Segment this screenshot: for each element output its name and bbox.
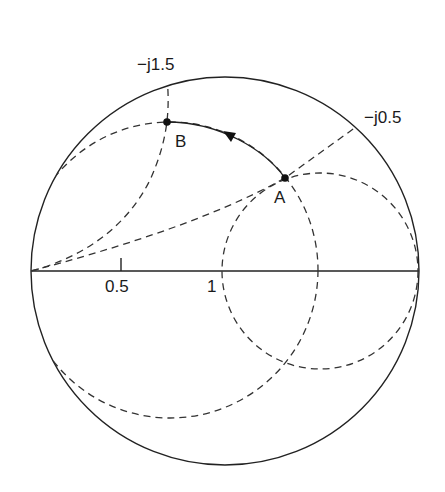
smith-chart: −j1.5 −j0.5 0.5 1 A B — [0, 0, 445, 492]
arrow-icon — [223, 131, 236, 142]
reactance-0-5-line — [31, 127, 356, 271]
label-point-a: A — [274, 188, 286, 207]
label-resistance-half: 0.5 — [105, 277, 129, 296]
constant-swr-circle — [22, 122, 318, 418]
label-resistance-one: 1 — [207, 277, 216, 296]
label-reactance-top: −j1.5 — [137, 55, 174, 74]
reactance-1-5-arc — [31, 77, 168, 271]
point-a-marker — [281, 174, 289, 182]
label-reactance-right: −j0.5 — [364, 108, 401, 127]
label-point-b: B — [175, 132, 186, 151]
point-b-marker — [163, 118, 171, 126]
